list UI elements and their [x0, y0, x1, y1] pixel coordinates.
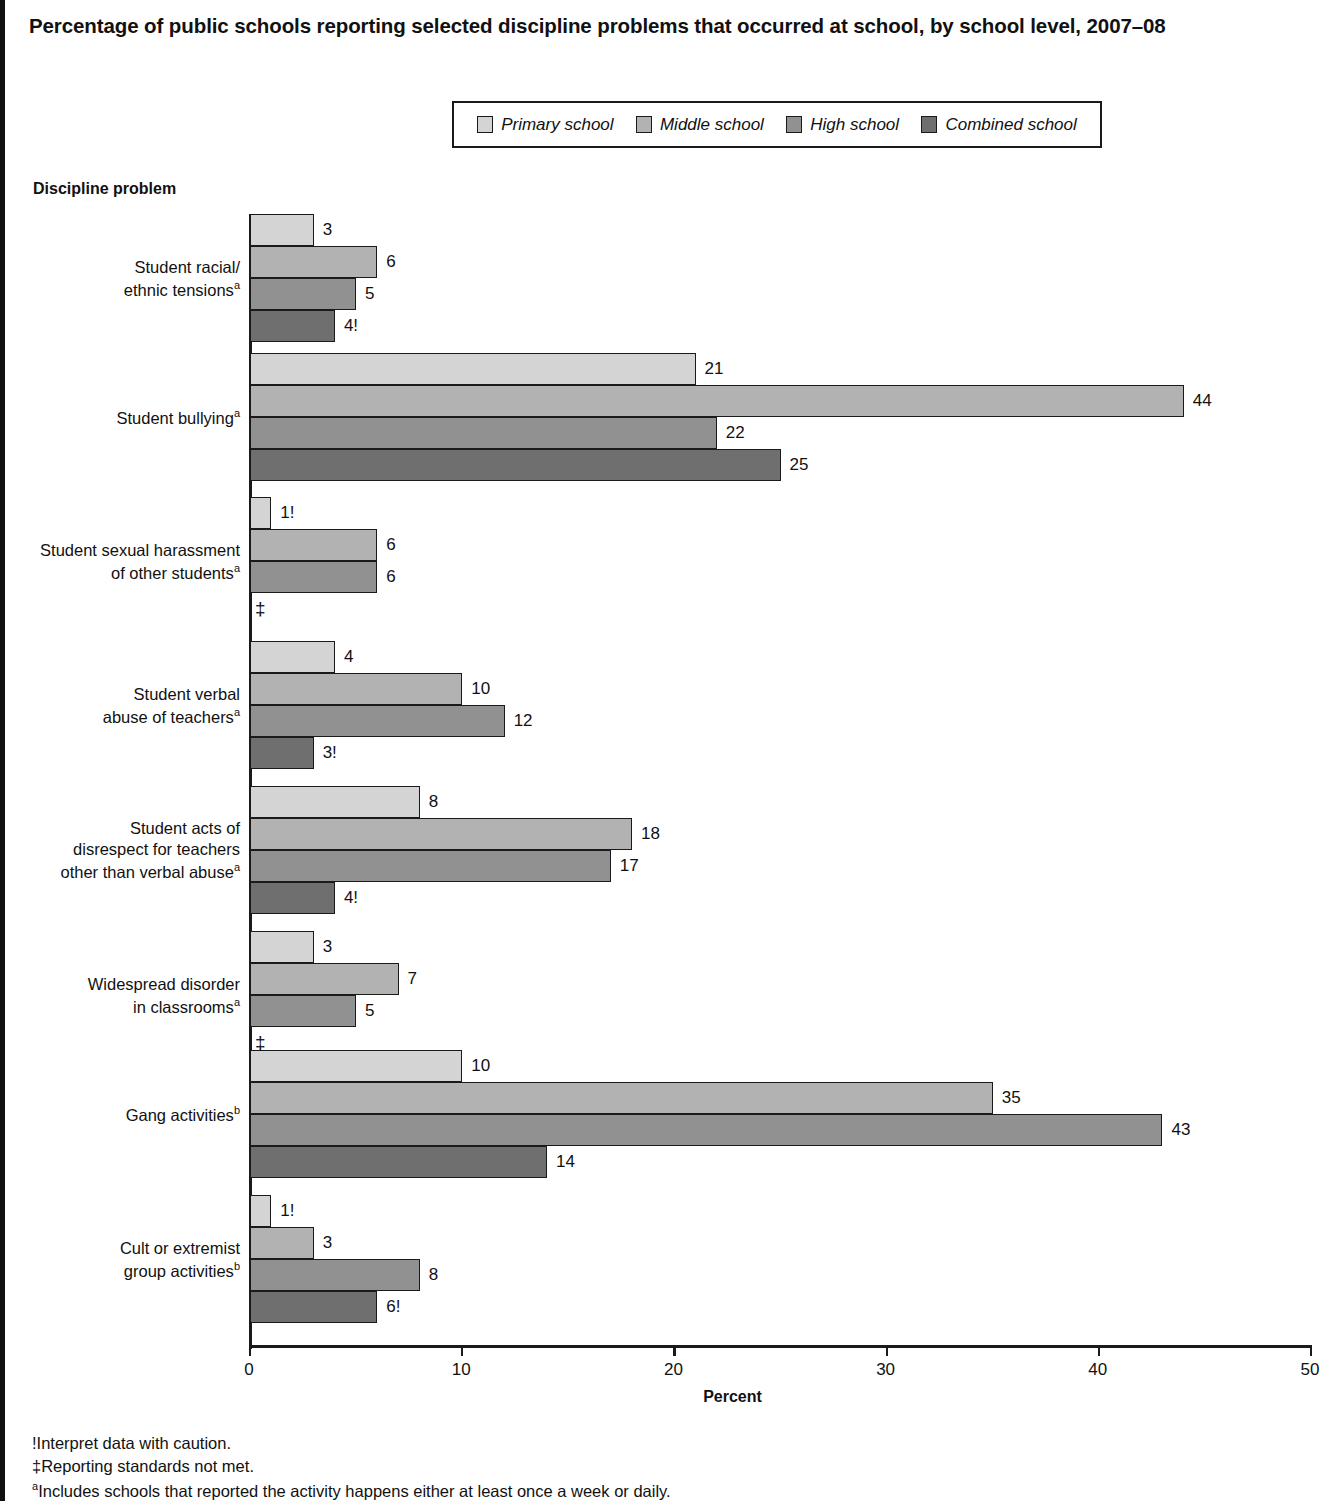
bar[interactable] [250, 931, 314, 963]
x-axis-tick-label: 10 [452, 1360, 471, 1380]
bar-value-label: 18 [641, 824, 660, 844]
bar-row: 12 [250, 705, 1310, 737]
bar-row: 10 [250, 673, 1310, 705]
bar-value-label: 10 [471, 1056, 490, 1076]
bar[interactable] [250, 246, 377, 278]
bar-value-label: 43 [1171, 1120, 1190, 1140]
bar-row: 7 [250, 963, 1310, 995]
bar[interactable] [250, 1146, 547, 1178]
bar[interactable] [250, 1291, 377, 1323]
bar-row: 3 [250, 1227, 1310, 1259]
bar-row: 4 [250, 641, 1310, 673]
bar-value-label: 3! [323, 743, 337, 763]
bar[interactable] [250, 1195, 271, 1227]
bar-group: Student verbalabuse of teachersa410123! [5, 641, 1327, 769]
bar-row: 6! [250, 1291, 1310, 1323]
bar-value-label: 6 [386, 252, 395, 272]
bar-row: 5 [250, 995, 1310, 1027]
plot-area: Student racial/ethnic tensionsa3654!Stud… [5, 205, 1327, 1345]
bar-group: Widespread disorderin classroomsa375‡ [5, 931, 1327, 1059]
legend-item-high-school[interactable]: High school [786, 115, 899, 135]
bar-group: Gang activitiesb10354314 [5, 1050, 1327, 1178]
bar[interactable] [250, 449, 781, 481]
bar[interactable] [250, 1114, 1162, 1146]
category-label: Student bullyinga [0, 406, 240, 429]
x-axis-tick-label: 20 [664, 1360, 683, 1380]
footnotes: !Interpret data with caution.‡Reporting … [32, 1432, 1302, 1501]
y-axis-heading: Discipline problem [33, 180, 176, 198]
bar[interactable] [250, 1050, 462, 1082]
category-label: Cult or extremistgroup activitiesb [0, 1238, 240, 1282]
footnote: ‡Reporting standards not met. [32, 1455, 1302, 1478]
bar[interactable] [250, 417, 717, 449]
bar-value-label: 22 [726, 423, 745, 443]
x-axis-tick [886, 1345, 888, 1356]
bar[interactable] [250, 963, 399, 995]
bar[interactable] [250, 561, 377, 593]
bar[interactable] [250, 737, 314, 769]
bar[interactable] [250, 818, 632, 850]
bar-row: 8 [250, 786, 1310, 818]
category-label: Gang activitiesb [0, 1103, 240, 1126]
bar-row: 14 [250, 1146, 1310, 1178]
bar-value-label: 7 [408, 969, 417, 989]
bar-value-label: 8 [429, 792, 438, 812]
x-axis-tick [1310, 1345, 1312, 1356]
bar-group: Student racial/ethnic tensionsa3654! [5, 214, 1327, 342]
bar[interactable] [250, 882, 335, 914]
bar-row: 1! [250, 1195, 1310, 1227]
bar-value-label: 10 [471, 679, 490, 699]
bar-group: Cult or extremistgroup activitiesb1!386! [5, 1195, 1327, 1323]
category-label: Student acts ofdisrespect for teachersot… [0, 818, 240, 883]
legend-item-combined-school[interactable]: Combined school [921, 115, 1076, 135]
bar-row: 6 [250, 246, 1310, 278]
bar[interactable] [250, 278, 356, 310]
legend-swatch-icon [786, 116, 802, 133]
bar[interactable] [250, 641, 335, 673]
legend-swatch-icon [921, 116, 937, 133]
bar-value-label: 25 [790, 455, 809, 475]
bar-row: 3 [250, 931, 1310, 963]
bar[interactable] [250, 214, 314, 246]
bar-value-label: 6 [386, 535, 395, 555]
bar-value-label: 12 [514, 711, 533, 731]
bar[interactable] [250, 995, 356, 1027]
legend-item-primary-school[interactable]: Primary school [477, 115, 613, 135]
bar[interactable] [250, 353, 696, 385]
legend-item-middle-school[interactable]: Middle school [636, 115, 764, 135]
bar-row: 5 [250, 278, 1310, 310]
bar-row: 3! [250, 737, 1310, 769]
bar-row: 10 [250, 1050, 1310, 1082]
bar-group: Student bullyinga21442225 [5, 353, 1327, 481]
bar-value-label: 3 [323, 220, 332, 240]
category-label: Student racial/ethnic tensionsa [0, 257, 240, 301]
x-axis-tick-label: 50 [1301, 1360, 1320, 1380]
bar[interactable] [250, 673, 462, 705]
bar[interactable] [250, 497, 271, 529]
bar[interactable] [250, 529, 377, 561]
legend-label: High school [810, 115, 899, 135]
bar-row: 6 [250, 529, 1310, 561]
bar[interactable] [250, 310, 335, 342]
x-axis-tick-label: 0 [244, 1360, 253, 1380]
bar-row: 18 [250, 818, 1310, 850]
bar-value-label: 5 [365, 1001, 374, 1021]
bar[interactable] [250, 786, 420, 818]
bar-row: 17 [250, 850, 1310, 882]
x-axis-tick [249, 1345, 251, 1356]
bar[interactable] [250, 850, 611, 882]
bar-row: 21 [250, 353, 1310, 385]
bar-group: Student acts ofdisrespect for teachersot… [5, 786, 1327, 914]
bar-row: 4! [250, 310, 1310, 342]
bar[interactable] [250, 1082, 993, 1114]
x-axis-tick-label: 40 [1088, 1360, 1107, 1380]
bar[interactable] [250, 385, 1184, 417]
bar-row: 25 [250, 449, 1310, 481]
bar[interactable] [250, 1259, 420, 1291]
bar-row: 1! [250, 497, 1310, 529]
bar[interactable] [250, 705, 505, 737]
bar-value-label: 44 [1193, 391, 1212, 411]
bar[interactable] [250, 1227, 314, 1259]
bar-value-label: 6! [386, 1297, 400, 1317]
bar-row: 35 [250, 1082, 1310, 1114]
